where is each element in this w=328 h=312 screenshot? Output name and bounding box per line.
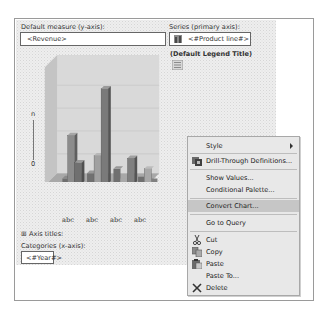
categories-drop-label: Categories (x-axis): — [21, 242, 86, 250]
menu-item-drill-through[interactable]: Drill-Through Definitions... — [188, 155, 299, 167]
series-bar-icon — [174, 35, 182, 43]
submenu-arrow-icon — [290, 143, 293, 149]
legend-title[interactable]: (Default Legend Title) — [170, 50, 252, 58]
paste-icon — [192, 259, 202, 269]
series-drop-zone[interactable]: <#Product line#> — [169, 32, 251, 46]
context-menu: Style Drill-Through Definitions... Show … — [187, 136, 300, 296]
menu-item-cut[interactable]: Cut — [188, 234, 299, 246]
x-tick-4: abc — [134, 216, 146, 224]
menu-item-style[interactable]: Style — [188, 140, 299, 152]
legend-icon[interactable] — [172, 60, 183, 70]
menu-item-paste[interactable]: Paste — [188, 258, 299, 270]
menu-separator — [190, 231, 297, 232]
x-tick-1: abc — [62, 216, 74, 224]
delete-x-icon — [192, 283, 202, 293]
axis-titles-toggle[interactable]: ⊞ — [21, 230, 27, 238]
y-axis-drop-zone[interactable]: <Revenue> — [20, 32, 166, 46]
categories-drop-zone[interactable]: <#Year#> — [21, 251, 54, 264]
scissors-icon — [192, 235, 202, 245]
menu-item-copy[interactable]: Copy — [188, 246, 299, 258]
y-axis-bottom-tick: 0 — [31, 160, 35, 168]
drill-through-icon — [192, 156, 202, 166]
y-axis-measure: <Revenue> — [27, 35, 67, 43]
y-axis-line — [33, 120, 34, 160]
menu-item-show-values[interactable]: Show Values... — [188, 172, 299, 184]
chart-3d-bars — [38, 50, 166, 182]
axis-titles-label: Axis titles: — [29, 230, 63, 238]
menu-separator — [190, 198, 297, 199]
menu-separator — [190, 153, 297, 154]
series-product-line: <#Product line#> — [188, 35, 249, 43]
y-axis-top-tick: n — [31, 110, 35, 118]
y-axis-drop-label: Default measure (y-axis): — [21, 23, 105, 31]
x-tick-3: abc — [110, 216, 122, 224]
menu-item-delete[interactable]: Delete — [188, 282, 299, 294]
series-drop-label: Series (primary axis): — [169, 23, 240, 31]
menu-item-conditional-palette[interactable]: Conditional Palette... — [188, 184, 299, 196]
menu-item-paste-to[interactable]: Paste To... — [188, 270, 299, 282]
copy-icon — [192, 247, 202, 257]
menu-separator — [190, 169, 297, 170]
categories-year: <#Year#> — [26, 254, 62, 262]
x-tick-2: abc — [86, 216, 98, 224]
menu-item-convert-chart[interactable]: Convert Chart... — [188, 200, 299, 212]
menu-item-go-to-query[interactable]: Go to Query — [188, 217, 299, 229]
menu-separator — [190, 214, 297, 215]
